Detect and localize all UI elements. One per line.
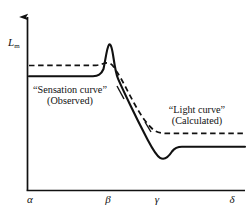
x-tick-beta: β [100, 193, 116, 205]
light-annotation-line1: “Light curve” [150, 104, 244, 115]
x-tick-delta: δ [224, 193, 240, 205]
figure-container: Lm α β γ δ “Sensation curve” (Observed) … [0, 0, 248, 217]
sensation-curve-annotation: “Sensation curve” (Observed) [18, 84, 122, 106]
y-axis-label-subscript: m [14, 42, 19, 50]
light-curve-annotation: “Light curve” (Calculated) [150, 104, 244, 126]
x-tick-gamma: γ [149, 193, 165, 205]
x-tick-alpha: α [22, 193, 38, 205]
light-annotation-line2: (Calculated) [150, 115, 244, 126]
sensation-annotation-line2: (Observed) [18, 95, 122, 106]
y-axis-label: Lm [8, 36, 20, 51]
sensation-annotation-line1: “Sensation curve” [18, 84, 122, 95]
